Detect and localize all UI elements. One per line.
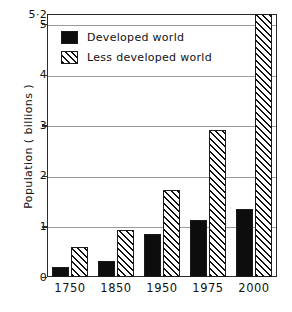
x-tick-label-1850: 1850: [100, 281, 131, 295]
x-tick-label-1975: 1975: [192, 281, 223, 295]
bar-1850-developed: [98, 261, 115, 277]
chart-legend: Developed worldLess developed world: [61, 29, 212, 69]
y-tick-label-2: 2: [3, 170, 47, 181]
population-bar-chart: Population ( billions ) 0123455·2 175018…: [0, 0, 292, 312]
solid-square-icon: [61, 31, 78, 44]
bar-group-2000: [236, 14, 272, 277]
bar-2000-developed: [236, 209, 253, 277]
legend-label: Less developed world: [87, 51, 212, 64]
bar-1975-developed: [190, 220, 207, 277]
y-tick-mark-0: [42, 277, 47, 278]
y-axis: 0123455·2: [0, 0, 47, 312]
bar-1750-less-developed: [71, 247, 88, 277]
y-tick-label-4: 4: [3, 69, 47, 80]
bar-1750-developed: [52, 267, 69, 277]
hatched-square-icon: [61, 51, 78, 64]
legend-item-developed-world: Developed world: [61, 29, 212, 46]
bar-1975-less-developed: [209, 130, 226, 277]
y-tick-label-1: 1: [3, 221, 47, 232]
y-tick-label-0: 0: [3, 272, 47, 283]
legend-label: Developed world: [87, 31, 184, 44]
bar-1850-less-developed: [117, 230, 134, 277]
y-tick-label-3: 3: [3, 120, 47, 131]
x-tick-label-2000: 2000: [238, 281, 269, 295]
bar-1950-developed: [144, 234, 161, 277]
legend-item-less-developed-world: Less developed world: [61, 49, 212, 66]
y-tick-label-5·2: 5·2: [3, 9, 47, 20]
bar-2000-less-developed: [255, 14, 272, 277]
x-tick-label-1750: 1750: [54, 281, 85, 295]
x-axis-labels: 17501850195019752000: [47, 281, 277, 303]
x-tick-label-1950: 1950: [146, 281, 177, 295]
bar-1950-less-developed: [163, 190, 180, 277]
